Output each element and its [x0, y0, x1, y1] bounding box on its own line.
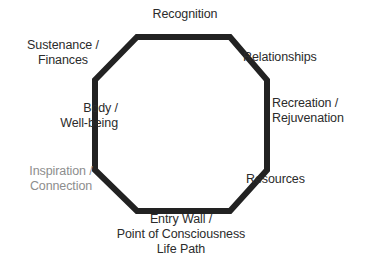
label-entry-wall: Entry Wall / Point of Consciousness Life…: [78, 212, 284, 257]
label-resources-line1: Resources: [246, 172, 305, 186]
label-sustenance-line1: Sustenance /: [8, 38, 118, 53]
label-resources: Resources: [246, 172, 366, 187]
label-entry-line3: Life Path: [78, 242, 284, 257]
label-inspiration-line1: Inspiration /: [4, 164, 118, 179]
label-recognition-line1: Recognition: [153, 7, 218, 21]
label-recreation-rejuvenation: Recreation / Rejuvenation: [272, 96, 370, 126]
label-sustenance-finances: Sustenance / Finances: [8, 38, 118, 68]
label-relationships: Relationships: [243, 50, 367, 65]
label-entry-line2: Point of Consciousness: [78, 227, 284, 242]
octagon-outline: [95, 37, 267, 211]
diagram-canvas: Recognition Sustenance / Finances Relati…: [0, 0, 371, 275]
label-recreation-line2: Rejuvenation: [272, 111, 370, 126]
label-inspiration-connection: Inspiration / Connection: [4, 164, 118, 194]
label-recognition: Recognition: [115, 7, 255, 22]
label-body-line2: Well-being: [6, 116, 118, 131]
label-entry-line1: Entry Wall /: [78, 212, 284, 227]
label-recreation-line1: Recreation /: [272, 96, 370, 111]
label-body-line1: Body /: [6, 101, 118, 116]
label-relationships-line1: Relationships: [243, 50, 317, 64]
label-sustenance-line2: Finances: [8, 53, 118, 68]
label-body-wellbeing: Body / Well-being: [6, 101, 118, 131]
label-inspiration-line2: Connection: [4, 179, 118, 194]
